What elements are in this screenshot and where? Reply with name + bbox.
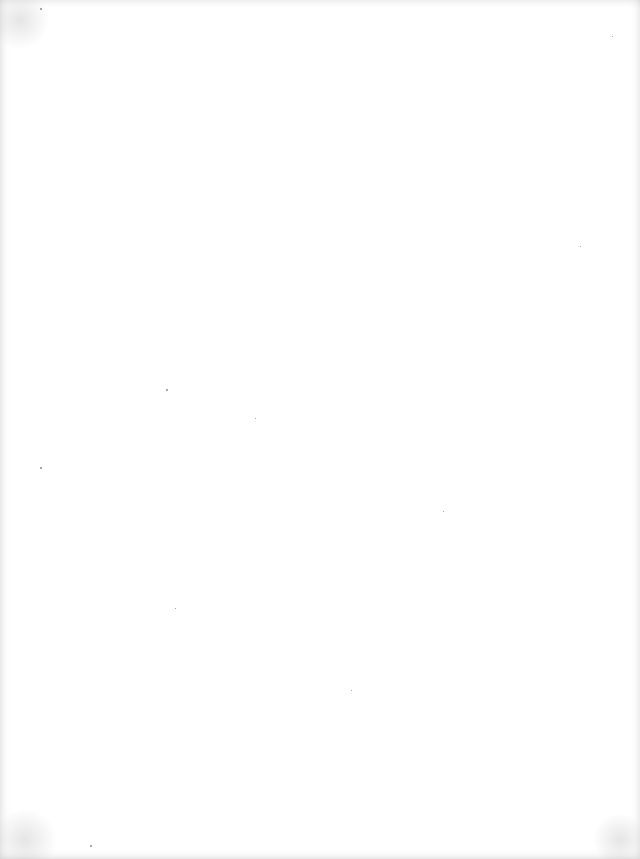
dust-speck	[580, 246, 581, 247]
dust-speck	[166, 389, 168, 391]
dust-speck	[90, 845, 92, 847]
dust-speck	[175, 608, 176, 609]
dust-speck	[40, 8, 42, 10]
scan-smudge-bottom-right	[590, 815, 640, 859]
dust-speck	[255, 418, 256, 419]
blank-scanned-page	[0, 0, 640, 859]
dust-speck	[351, 690, 352, 691]
dust-speck	[443, 511, 444, 512]
dust-speck	[40, 467, 42, 469]
scan-smudge-bottom-left	[0, 810, 60, 859]
dust-speck	[612, 36, 613, 37]
scan-smudge-top-left	[0, 0, 50, 50]
